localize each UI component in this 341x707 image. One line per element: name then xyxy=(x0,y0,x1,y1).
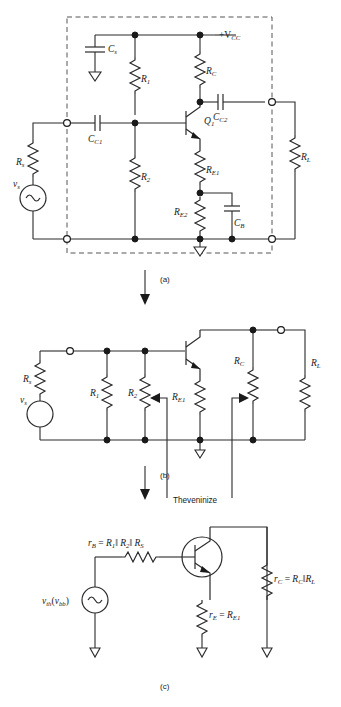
node-terminal xyxy=(67,348,74,355)
resistor-re1-b: RE1 xyxy=(171,378,205,440)
source-top-lead xyxy=(33,123,67,140)
node-terminal xyxy=(64,236,71,243)
resistor-re1: RE1 xyxy=(195,148,219,193)
resistor-re1-label: RE1 xyxy=(205,165,219,176)
resistor-rc: RC xyxy=(195,51,217,102)
resistor-re2-label: RE2 xyxy=(173,207,188,218)
resistor-rl-b-label: RL xyxy=(310,358,321,369)
node-filled xyxy=(197,437,203,443)
node-filled xyxy=(197,190,203,196)
capacitor-cs: Cs xyxy=(85,44,117,81)
resistor-rs-b: Rs xyxy=(22,360,45,401)
supply-label: +VCC xyxy=(219,30,241,41)
caption-a: (a) xyxy=(160,275,170,284)
resistor-rc-c: rC = RC‖RL xyxy=(262,527,315,648)
arrow-b-to-c xyxy=(140,466,150,500)
resistor-r2-label: R2 xyxy=(140,172,151,183)
theveninize-label: Theveninize xyxy=(173,496,218,505)
resistor-re2: RE2 xyxy=(173,197,205,239)
circuit-figure: +VCC Cs R1 RC xyxy=(0,0,341,707)
node-terminal xyxy=(64,120,71,127)
source-vs-b: vs xyxy=(20,395,53,440)
resistor-rs-b-label: Rs xyxy=(22,374,32,385)
capacitor-cb-label: CB xyxy=(234,218,245,229)
caption-b: (b) xyxy=(160,471,170,480)
theveninize-arrow-right xyxy=(232,393,249,498)
b-rl-top-lead xyxy=(281,330,305,375)
node-filled xyxy=(132,32,138,38)
resistor-r1: R1 xyxy=(130,57,150,115)
rc-equation: rC = RC‖RL xyxy=(274,574,315,585)
resistor-rs-a-label: Rs xyxy=(15,157,25,168)
circuit-b: Rs vs R1 R2 xyxy=(20,327,321,505)
resistor-re1-b-label: RE1 xyxy=(171,392,185,403)
source-vth-c: vth(vbb) xyxy=(42,587,108,648)
circuit-c: rB = R1‖ R2‖ RS vth(vbb) xyxy=(42,527,315,657)
transistor-b xyxy=(186,330,200,378)
ground-symbol-c3 xyxy=(262,648,272,657)
re-equation: rE = RE1 xyxy=(209,610,240,621)
source-vth-label: vth(vbb) xyxy=(42,596,69,607)
resistor-rl-a: RL xyxy=(290,135,311,239)
theveninize-arrow-left xyxy=(150,393,167,498)
resistor-r1-label: R1 xyxy=(140,74,150,85)
node-terminal xyxy=(269,99,276,106)
arrow-a-to-b xyxy=(140,270,150,305)
capacitor-cc2: CC2 xyxy=(213,94,235,123)
ground-symbol-c2 xyxy=(197,648,207,657)
capacitor-cb: CB xyxy=(200,193,245,239)
capacitor-cs-label: Cs xyxy=(108,44,117,55)
transistor-q1: Q1 xyxy=(135,102,214,148)
node-filled xyxy=(132,120,138,126)
resistor-r1-b-label: R1 xyxy=(89,388,99,399)
node-terminal xyxy=(278,327,285,334)
resistor-rc-b: RC xyxy=(233,330,258,440)
resistor-rl-b: RL xyxy=(300,358,321,440)
transistor-c xyxy=(182,527,222,600)
node-filled xyxy=(197,236,203,242)
node-filled xyxy=(197,32,203,38)
circuit-a: +VCC Cs R1 RC xyxy=(13,17,311,256)
source-vs-b-label: vs xyxy=(20,395,27,406)
resistor-rc-b-label: RC xyxy=(233,356,245,367)
resistor-r1-b: R1 xyxy=(89,351,112,440)
resistor-r2-b-label: R2 xyxy=(127,388,138,399)
resistor-rb-c xyxy=(122,552,182,562)
node-filled xyxy=(104,437,110,443)
capacitor-cc1-label: CC1 xyxy=(88,134,102,145)
node-filled xyxy=(142,348,148,354)
source-vs-a: vs xyxy=(13,179,46,239)
node-filled xyxy=(250,327,256,333)
node-filled xyxy=(132,236,138,242)
rb-equation: rB = R1‖ R2‖ RS xyxy=(88,538,144,549)
resistor-r2: R2 xyxy=(130,123,151,239)
capacitor-cc1: CC1 xyxy=(67,115,102,145)
node-filled xyxy=(142,437,148,443)
resistor-rl-a-label: RL xyxy=(300,152,311,163)
node-filled xyxy=(104,348,110,354)
node-terminal xyxy=(269,236,276,243)
ground-symbol-a xyxy=(194,247,206,256)
ground-symbol-b xyxy=(195,450,205,458)
node-filled xyxy=(229,236,235,242)
ground-symbol-c1 xyxy=(90,648,100,657)
node-filled xyxy=(197,99,203,105)
resistor-rc-label: RC xyxy=(205,66,217,77)
circuit-svg: +VCC Cs R1 RC xyxy=(0,0,341,707)
resistor-r2-b: R2 xyxy=(127,351,150,440)
caption-c: (c) xyxy=(160,682,170,691)
capacitor-cc2-label: CC2 xyxy=(213,112,228,123)
resistor-rs-a: Rs xyxy=(15,140,38,185)
node-filled xyxy=(250,437,256,443)
source-vs-a-label: vs xyxy=(13,179,20,190)
rl-top-lead xyxy=(272,102,295,135)
resistor-re-c: rE = RE1 xyxy=(197,600,240,648)
